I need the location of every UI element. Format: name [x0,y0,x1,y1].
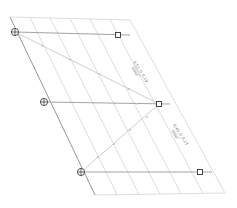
end-marker-middle[interactable] [157,102,162,107]
brace-label-1: 6.51_0_0.19 Steel [128,60,149,86]
beam-top [15,32,130,35]
grid [10,17,225,195]
end-marker-bottom[interactable] [198,170,203,175]
support-node-top[interactable] [11,28,18,35]
brace-label-2: 6.45_0_0.17 Steel [168,123,189,149]
beam-middle [44,102,170,104]
brace-lower [81,104,159,172]
bracing-diagram: 6.51_0_0.19 Steel 6.45_0_0.17 Steel [0,0,237,208]
support-node-bottom[interactable] [77,168,84,175]
support-node-middle[interactable] [40,98,47,105]
end-marker-top[interactable] [116,33,121,38]
